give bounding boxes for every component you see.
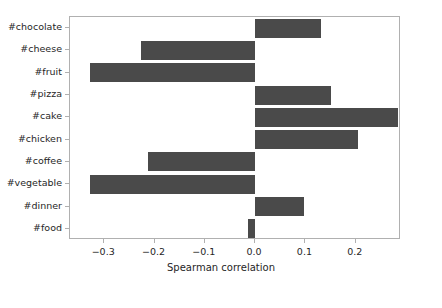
bar	[255, 130, 358, 149]
x-tick-label: 0.1	[284, 246, 324, 257]
x-tick-mark	[254, 239, 255, 243]
x-axis-title: Spearman correlation	[0, 262, 442, 273]
y-tick-label: #chocolate	[0, 22, 62, 32]
bar	[255, 19, 321, 38]
plot-area	[69, 16, 400, 239]
y-tick-label: #chicken	[0, 134, 62, 144]
figure: #chocolate#cheese#fruit#pizza#cake#chick…	[0, 0, 442, 308]
y-tick-label: #fruit	[0, 67, 62, 77]
y-tick-label: #pizza	[0, 89, 62, 99]
y-tick-label: #coffee	[0, 156, 62, 166]
y-tick-label: #vegetable	[0, 178, 62, 188]
bar	[90, 63, 256, 82]
x-tick-label: −0.2	[134, 246, 174, 257]
x-tick-mark	[204, 239, 205, 243]
bar	[90, 175, 256, 194]
x-tick-label: −0.3	[83, 246, 123, 257]
x-tick-label: −0.1	[184, 246, 224, 257]
x-tick-label: 0.0	[234, 246, 274, 257]
bar	[255, 108, 398, 127]
x-tick-label: 0.2	[335, 246, 375, 257]
bar	[248, 219, 255, 238]
bar	[255, 197, 304, 216]
y-tick-label: #dinner	[0, 201, 62, 211]
bar	[148, 152, 255, 171]
y-tick-label: #food	[0, 223, 62, 233]
y-tick-label: #cake	[0, 111, 62, 121]
x-tick-mark	[103, 239, 104, 243]
bar	[141, 41, 255, 60]
x-tick-mark	[154, 239, 155, 243]
x-tick-mark	[304, 239, 305, 243]
bar	[255, 86, 331, 105]
x-tick-mark	[355, 239, 356, 243]
y-tick-label: #cheese	[0, 44, 62, 54]
